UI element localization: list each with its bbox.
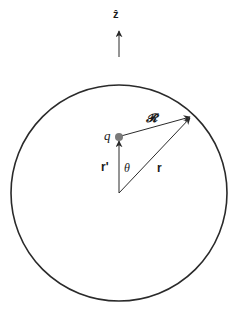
field-position-label: r — [157, 162, 162, 174]
r-vector — [119, 118, 190, 193]
charge-label: q — [104, 129, 111, 142]
angle-label: θ — [124, 162, 130, 174]
diagram-canvas — [0, 0, 235, 315]
separation-label: 𝓡 — [146, 112, 157, 124]
source-position-label: r' — [101, 161, 109, 173]
charge-point — [115, 133, 123, 141]
z-hat-label: ẑ — [113, 9, 119, 20]
